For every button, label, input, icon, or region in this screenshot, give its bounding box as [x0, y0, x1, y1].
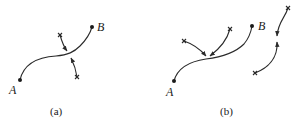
crossing-path-lower [71, 58, 77, 77]
label-point-b: B [97, 21, 104, 33]
separate-curve-lower [255, 42, 277, 73]
separate-curve-upper [277, 8, 288, 36]
panel-a [18, 25, 94, 82]
panel-b [172, 6, 290, 83]
arrow-left-source [184, 41, 206, 56]
crossing-path-upper [60, 35, 67, 51]
point-a-dot [172, 79, 176, 83]
arrow-upper-source [210, 29, 230, 56]
point-b-dot [250, 24, 254, 28]
label-point-a: A [9, 84, 16, 96]
point-a-dot [18, 78, 22, 82]
diagram-canvas [0, 0, 296, 125]
path-a-to-b [20, 27, 92, 80]
caption-b: (b) [220, 106, 233, 117]
label-point-b: B [258, 20, 265, 32]
label-point-a: A [166, 86, 173, 98]
caption-a: (a) [50, 106, 62, 117]
point-b-dot [90, 25, 94, 29]
